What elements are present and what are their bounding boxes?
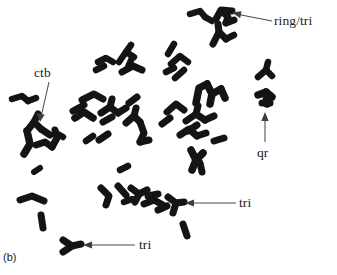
chromosome-cluster-top-right <box>190 10 234 44</box>
annotation-leader-ring-tri <box>232 11 272 21</box>
annotation-leader-qr <box>261 112 268 142</box>
annotation-leader-ctb <box>37 82 49 122</box>
panel-caption: (b) <box>3 252 16 263</box>
metaphase-spread-image <box>0 0 337 275</box>
annotation-label-tri-1: tri <box>239 196 251 210</box>
annotation-label-ctb: ctb <box>34 66 51 80</box>
chromosome-cluster-left <box>12 96 81 252</box>
annotation-leader-tri-2 <box>83 241 135 248</box>
chromosome-cluster-center <box>73 94 184 142</box>
annotation-leader-tri-1 <box>185 199 236 206</box>
chromosome-figure-panel: ring/tri ctb qr tri tri (b) <box>0 0 337 275</box>
annotation-label-tri-2: tri <box>139 238 151 252</box>
chromosome-cluster-upper-middle <box>96 44 188 78</box>
annotation-label-ring-tri: ring/tri <box>274 14 312 28</box>
annotation-label-qr: qr <box>257 146 268 160</box>
chromosome-cluster-bottom <box>101 166 187 236</box>
